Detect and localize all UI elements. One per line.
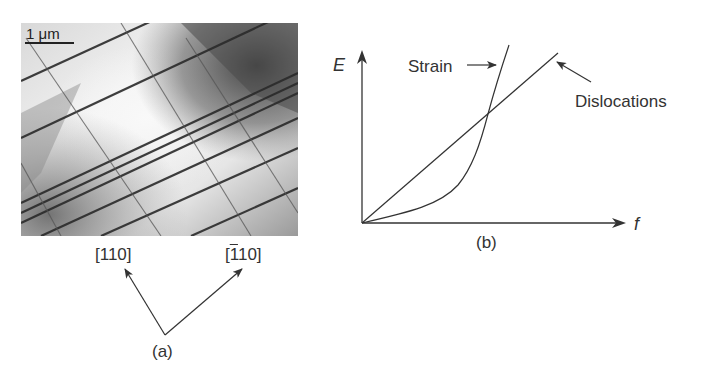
direction-label-110: [110] <box>95 246 132 263</box>
direction-label-bar1-10: [110] <box>225 246 262 263</box>
dislocations-arrow-icon <box>557 62 591 82</box>
strain-annotation: Strain <box>408 58 452 75</box>
tem-micrograph: 1 μm <box>21 23 298 236</box>
direction-rest: 10] <box>238 245 262 264</box>
micrograph-image <box>21 23 298 236</box>
overbar-digit: 1 <box>230 245 238 264</box>
figure: 1 μm [110] [110] <box>0 0 707 373</box>
energy-plot <box>357 45 626 228</box>
y-axis-arrow-icon <box>357 50 367 64</box>
scale-bar-label: 1 μm <box>26 25 60 42</box>
x-axis-arrow-icon <box>612 218 626 228</box>
dislocations-annotation: Dislocations <box>575 93 667 110</box>
panel-b-label: (b) <box>476 234 497 251</box>
scale-bar <box>25 42 74 44</box>
dislocations-line <box>362 53 558 223</box>
arrow-bar110-icon <box>165 269 242 335</box>
x-axis-label: f <box>634 215 639 233</box>
panel-a-label: (a) <box>152 343 173 360</box>
y-axis-label: E <box>333 56 345 74</box>
arrow-110-icon <box>125 269 165 335</box>
